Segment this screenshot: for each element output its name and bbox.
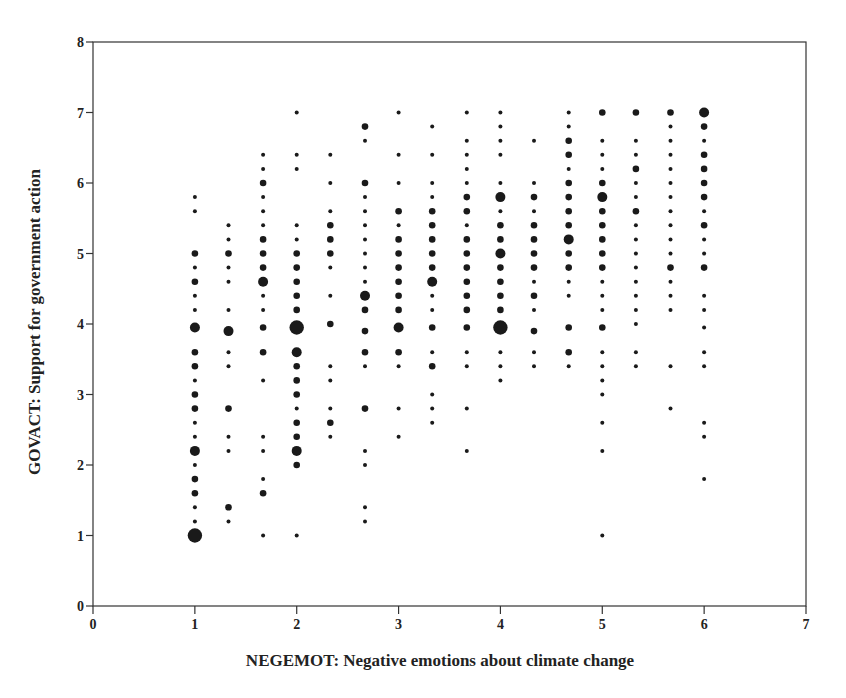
data-point	[532, 308, 536, 312]
data-point	[634, 139, 638, 143]
data-point	[702, 364, 706, 368]
data-point	[600, 153, 604, 157]
data-point	[260, 349, 267, 356]
data-point	[293, 419, 300, 426]
data-point	[634, 252, 638, 256]
data-point	[633, 109, 640, 116]
data-point	[669, 139, 673, 143]
data-point	[328, 364, 332, 368]
data-point	[293, 377, 300, 384]
data-point	[429, 236, 436, 243]
data-point	[498, 139, 502, 143]
data-point	[328, 153, 332, 157]
data-point	[599, 264, 606, 271]
data-point	[565, 250, 572, 257]
data-point	[430, 421, 434, 425]
data-point	[293, 264, 300, 271]
data-point	[295, 167, 299, 171]
y-tick-label: 7	[77, 106, 84, 121]
data-point	[363, 280, 367, 284]
data-point	[295, 534, 299, 538]
data-point	[193, 294, 197, 298]
data-point	[465, 407, 469, 411]
data-point	[465, 139, 469, 143]
data-point	[430, 294, 434, 298]
data-point	[702, 252, 706, 256]
data-point	[497, 264, 504, 271]
data-point	[464, 250, 471, 257]
data-point	[702, 209, 706, 213]
data-point	[362, 307, 369, 314]
data-point	[465, 364, 469, 368]
data-point	[362, 405, 369, 412]
data-point	[363, 505, 367, 509]
data-point	[702, 421, 706, 425]
data-point	[192, 476, 199, 483]
data-point	[292, 446, 302, 456]
data-point	[495, 249, 505, 259]
data-point	[429, 324, 436, 331]
data-point	[327, 222, 334, 229]
data-point	[465, 181, 469, 185]
data-point	[465, 223, 469, 227]
data-point	[429, 208, 436, 215]
data-point	[293, 307, 300, 314]
data-point	[227, 237, 231, 241]
data-point	[669, 125, 673, 129]
y-axis-title: GOVACT: Support for government action	[25, 168, 44, 475]
data-point	[397, 181, 401, 185]
data-point	[634, 322, 638, 326]
data-point	[464, 236, 471, 243]
data-point	[600, 421, 604, 425]
data-point	[430, 181, 434, 185]
data-point	[634, 280, 638, 284]
data-point	[193, 209, 197, 213]
data-point	[701, 264, 708, 271]
data-point	[669, 294, 673, 298]
data-point	[261, 435, 265, 439]
y-tick-label: 2	[77, 458, 84, 473]
data-point	[260, 250, 267, 257]
data-point	[634, 294, 638, 298]
data-point	[427, 277, 437, 287]
data-point	[531, 250, 538, 257]
data-point	[261, 534, 265, 538]
data-point	[193, 195, 197, 199]
data-point	[600, 393, 604, 397]
data-point	[464, 307, 471, 314]
data-point	[261, 477, 265, 481]
data-point	[295, 111, 299, 115]
data-point	[363, 195, 367, 199]
data-point	[227, 266, 231, 270]
data-point	[192, 250, 199, 257]
data-point	[634, 237, 638, 241]
data-point	[397, 364, 401, 368]
data-point	[192, 405, 199, 412]
data-point	[193, 421, 197, 425]
data-point	[328, 407, 332, 411]
data-point	[328, 181, 332, 185]
data-point	[600, 534, 604, 538]
data-point	[532, 364, 536, 368]
data-point	[498, 181, 502, 185]
data-point	[498, 153, 502, 157]
x-tick-label: 5	[599, 617, 606, 632]
data-point	[531, 222, 538, 229]
data-point	[227, 449, 231, 453]
data-point	[634, 153, 638, 157]
data-point	[363, 139, 367, 143]
data-point	[227, 350, 231, 354]
data-point	[295, 237, 299, 241]
data-point	[669, 237, 673, 241]
data-point	[192, 349, 199, 356]
x-tick-label: 0	[90, 617, 97, 632]
data-point	[261, 195, 265, 199]
data-point	[701, 152, 708, 159]
data-point	[567, 125, 571, 129]
data-point	[701, 194, 708, 201]
data-point	[493, 320, 507, 334]
scatter-chart: 01234567 012345678 NEGEMOT: Negative emo…	[0, 0, 846, 698]
data-point	[565, 194, 572, 201]
data-point	[531, 236, 538, 243]
data-point	[634, 364, 638, 368]
